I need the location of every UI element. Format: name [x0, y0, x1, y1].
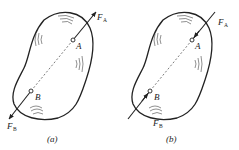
- force-A-subscript: A: [103, 17, 107, 23]
- line-of-action-dashed: [31, 40, 73, 91]
- force-B-subscript: B: [13, 126, 17, 132]
- line-of-action-dashed: [150, 40, 192, 91]
- two-force-member-diagram: A B F A F B (a) A B F A F B (b): [0, 0, 239, 150]
- force-A-symbol: F: [217, 17, 224, 27]
- force-B-subscript: B: [159, 123, 163, 129]
- point-A-label: A: [75, 41, 82, 51]
- panel-a: A B F A F B (a): [6, 12, 107, 144]
- force-B-symbol: F: [6, 121, 13, 131]
- caption-a: (a): [47, 134, 58, 144]
- force-B-arrow: [9, 91, 31, 119]
- point-B-label: B: [35, 92, 41, 102]
- force-A-subscript: A: [224, 22, 228, 28]
- rigid-body-outline: [132, 12, 212, 119]
- point-A-marker: [190, 38, 194, 42]
- point-A-label: A: [194, 41, 201, 51]
- force-A-symbol: F: [96, 12, 103, 22]
- point-B-marker: [29, 89, 33, 93]
- force-A-arrowhead: [194, 31, 199, 38]
- caption-b: (b): [166, 134, 177, 144]
- rigid-body-outline: [13, 12, 93, 119]
- panel-b: A B F A F B (b): [128, 12, 228, 144]
- point-B-label: B: [154, 92, 160, 102]
- point-A-marker: [71, 38, 75, 42]
- force-B-symbol: F: [152, 118, 159, 128]
- point-B-marker: [148, 89, 152, 93]
- force-B-arrowhead: [142, 94, 148, 102]
